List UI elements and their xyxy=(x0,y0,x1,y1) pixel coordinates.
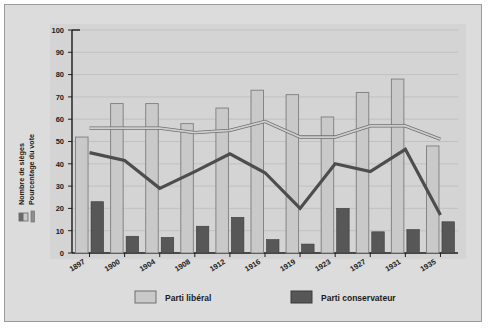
x-tick-label-year: 1919 xyxy=(278,257,297,273)
legend-seats-swatch-dark-half xyxy=(19,213,24,221)
y-tick-label: 30 xyxy=(56,182,64,191)
bar-conservateur-seats xyxy=(267,240,280,253)
y-tick-label: 70 xyxy=(56,93,64,102)
bar-conservateur-seats xyxy=(407,230,420,253)
bar-conservateur-seats xyxy=(442,222,455,253)
bar-liberal-seats xyxy=(76,137,89,253)
x-tick-label-year: 1908 xyxy=(173,257,192,273)
legend-label-parti-conservateur: Parti conservateur xyxy=(321,293,396,303)
chart-screenshot: 0102030405060708090100189719001904190819… xyxy=(0,0,488,329)
bar-liberal-seats xyxy=(111,104,124,253)
legend-label-parti-liberal: Parti libéral xyxy=(165,293,211,303)
y-tick-label: 60 xyxy=(56,115,64,124)
bar-conservateur-seats xyxy=(91,202,104,253)
y-tick-label: 50 xyxy=(56,137,64,146)
x-tick-label-year: 1931 xyxy=(384,257,403,273)
x-tick-label-year: 1916 xyxy=(243,257,262,273)
legend-swatch-parti-liberal xyxy=(135,291,156,303)
bar-conservateur-seats xyxy=(372,232,385,253)
bar-conservateur-seats xyxy=(161,237,174,253)
bar-liberal-seats xyxy=(286,95,299,253)
y-tick-label: 20 xyxy=(56,204,64,213)
axis-label-nombre-de-sieges: Nombre de sièges xyxy=(17,143,26,205)
legend-vote-line-swatch xyxy=(31,211,35,222)
bar-conservateur-seats xyxy=(196,226,209,253)
x-tick-label-year: 1935 xyxy=(419,257,438,273)
bar-liberal-seats xyxy=(356,92,369,253)
y-tick-label: 100 xyxy=(51,26,64,35)
x-tick-label-year: 1900 xyxy=(103,257,122,273)
axis-label-pourcentage-du-vote: Pourcentage du vote xyxy=(27,134,36,205)
x-tick-label-year: 1927 xyxy=(348,257,367,273)
bar-conservateur-seats xyxy=(126,236,138,253)
x-tick-label-year: 1904 xyxy=(138,257,158,274)
y-tick-label: 80 xyxy=(56,70,64,79)
y-tick-label: 40 xyxy=(56,160,64,169)
x-tick-label-year: 1923 xyxy=(313,257,332,273)
election-results-chart: 0102030405060708090100189719001904190819… xyxy=(0,0,488,329)
bar-liberal-seats xyxy=(181,124,194,253)
chart-canvas: 0102030405060708090100189719001904190819… xyxy=(0,0,488,329)
bar-conservateur-seats xyxy=(302,244,315,253)
bar-conservateur-seats xyxy=(231,217,244,253)
x-tick-label-year: 1897 xyxy=(68,257,87,273)
legend-swatch-parti-conservateur xyxy=(291,291,312,303)
y-tick-label: 10 xyxy=(56,227,64,236)
x-tick-label-year: 1912 xyxy=(208,257,227,273)
bar-liberal-seats xyxy=(391,79,404,253)
bar-conservateur-seats xyxy=(337,208,350,253)
y-tick-label: 0 xyxy=(60,249,64,258)
y-tick-label: 90 xyxy=(56,48,64,57)
